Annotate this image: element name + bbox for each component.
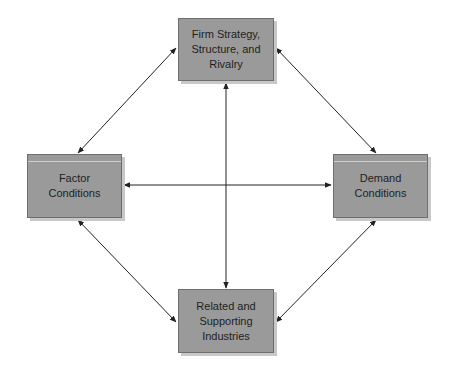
node-firm-strategy: Firm Strategy, Structure, and Rivalry bbox=[178, 18, 274, 81]
node-demand-conditions: Demand Conditions bbox=[333, 154, 428, 218]
node-label: Demand Conditions bbox=[355, 171, 407, 201]
arrow-top-left bbox=[78, 48, 176, 153]
arrow-top-right bbox=[276, 48, 376, 153]
node-factor-conditions: Factor Conditions bbox=[27, 154, 122, 218]
arrow-left-bottom bbox=[78, 220, 176, 322]
porter-diamond-diagram: Firm Strategy, Structure, and Rivalry Fa… bbox=[0, 0, 453, 372]
node-label: Factor Conditions bbox=[49, 171, 101, 201]
node-label: Related and Supporting Industries bbox=[196, 299, 255, 344]
arrow-right-bottom bbox=[276, 220, 376, 322]
node-label: Firm Strategy, Structure, and Rivalry bbox=[191, 27, 260, 72]
node-related-supporting-industries: Related and Supporting Industries bbox=[178, 289, 274, 353]
